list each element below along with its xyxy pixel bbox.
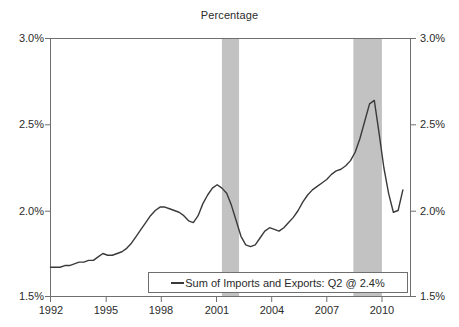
x-axis-label-5: 2007: [307, 304, 347, 316]
y-axis-ticks-left: [45, 39, 50, 297]
legend-line-swatch-icon: [171, 282, 184, 284]
y-axis-label-right-1: 2.0%: [420, 205, 459, 217]
chart-container: Percentage: [0, 0, 459, 327]
x-axis-label-0: 1992: [31, 304, 71, 316]
legend-entry: Sum of Imports and Exports: Q2 @ 2.4%: [171, 277, 384, 289]
legend-label: Sum of Imports and Exports: Q2 @ 2.4%: [185, 277, 384, 289]
recession-band-2: [353, 38, 382, 297]
y-axis-label-left-3: 3.0%: [4, 32, 44, 44]
x-axis-label-1: 1995: [86, 304, 126, 316]
y-axis-label-right-3: 3.0%: [420, 32, 459, 44]
y-axis-label-right-2: 2.5%: [420, 118, 459, 130]
recession-band-1: [222, 38, 239, 297]
x-axis-label-6: 2010: [362, 304, 402, 316]
x-axis-label-4: 2004: [252, 304, 292, 316]
y-axis-label-right-0: 1.5%: [420, 290, 459, 302]
x-axis-label-3: 2001: [197, 304, 237, 316]
y-axis-label-left-0: 1.5%: [4, 290, 44, 302]
y-axis-ticks-right: [411, 39, 416, 297]
x-axis-label-2: 1998: [141, 304, 181, 316]
y-axis-label-left-2: 2.5%: [4, 118, 44, 130]
chart-legend: Sum of Imports and Exports: Q2 @ 2.4%: [148, 272, 408, 293]
y-axis-label-left-1: 2.0%: [4, 205, 44, 217]
x-axis-ticks: [51, 297, 383, 302]
